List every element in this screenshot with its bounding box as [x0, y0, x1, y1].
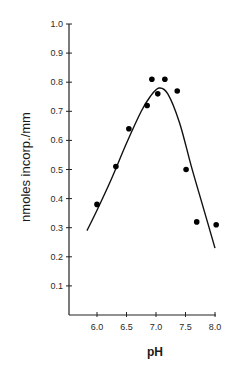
- data-point: [183, 167, 189, 173]
- y-tick-label: 0.3: [50, 223, 63, 233]
- y-tick-label: 0.1: [50, 281, 63, 291]
- ph-incorporation-chart: 0.10.20.30.40.50.60.70.80.91.0 6.06.57.0…: [0, 0, 235, 373]
- y-tick-label: 0.2: [50, 252, 63, 262]
- y-tick-label: 0.8: [50, 77, 63, 87]
- y-tick-label: 0.6: [50, 135, 63, 145]
- x-tick-label: 6.0: [91, 322, 104, 332]
- data-point: [144, 103, 150, 109]
- y-tick-label: 0.5: [50, 165, 63, 175]
- x-tick-label: 8.0: [209, 322, 222, 332]
- data-point: [126, 126, 132, 132]
- x-axis-title: pH: [147, 345, 163, 359]
- data-point: [149, 76, 155, 82]
- y-tick-label: 0.7: [50, 106, 63, 116]
- y-tick-label: 1.0: [50, 19, 63, 29]
- y-tick-label: 0.4: [50, 194, 63, 204]
- data-point: [94, 202, 100, 208]
- data-point: [162, 76, 168, 82]
- x-tick-label: 6.5: [120, 322, 133, 332]
- x-tick-label: 7.5: [179, 322, 192, 332]
- data-point: [213, 222, 219, 228]
- data-point: [155, 91, 161, 97]
- y-axis-title: nmoles incorp./mm: [18, 112, 33, 222]
- data-point: [113, 164, 119, 170]
- axes: [69, 24, 216, 315]
- data-points: [94, 76, 219, 227]
- y-tick-label: 0.9: [50, 48, 63, 58]
- data-point: [194, 219, 200, 225]
- data-point: [174, 88, 180, 94]
- x-tick-label: 7.0: [150, 322, 163, 332]
